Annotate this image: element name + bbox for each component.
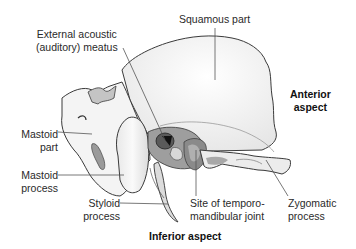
label-anterior-aspect: Anterior aspect — [290, 88, 331, 113]
label-tmj: Site of temporo- mandibular joint — [190, 197, 265, 222]
label-external-meatus: External acoustic (auditory) meatus — [36, 28, 118, 53]
label-mastoid-process: Mastoid process — [10, 169, 58, 194]
label-mastoid-part: Mastoid part — [18, 128, 58, 153]
label-zygomatic-process: Zygomatic process — [288, 197, 336, 222]
label-squamous-part: Squamous part — [179, 13, 250, 26]
external-meatus-opening — [156, 133, 174, 149]
label-inferior-aspect: Inferior aspect — [149, 230, 221, 243]
mastoid-process-shape — [116, 117, 148, 193]
styloid-process-shape — [154, 162, 178, 222]
label-styloid-process: Styloid process — [74, 197, 120, 222]
leader-styloid — [120, 203, 168, 204]
